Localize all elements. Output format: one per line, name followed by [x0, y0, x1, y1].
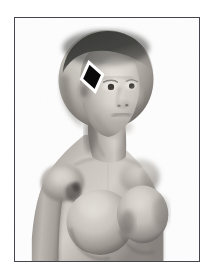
image-canvas: Grayscale 3D rendered female figure show…	[0, 0, 214, 275]
image-frame	[14, 17, 200, 262]
anatomical-figure-render	[15, 18, 199, 261]
